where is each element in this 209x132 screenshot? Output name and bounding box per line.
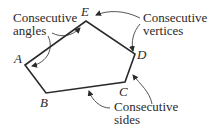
angles-arrow-to-a xyxy=(32,36,50,66)
consecutive-angles-label: Consecutive angles xyxy=(13,11,77,37)
sides-label-line2: sides xyxy=(114,113,178,126)
vertex-label-c: C xyxy=(119,85,128,98)
vertices-arrow-to-e xyxy=(96,12,140,18)
consecutive-vertices-label: Consecutive vertices xyxy=(143,11,207,37)
consecutive-parts-diagram: A B C D E Consecutive angles Consecutive… xyxy=(0,0,209,132)
angles-label-line2: angles xyxy=(13,24,77,37)
vertices-label-line2: vertices xyxy=(143,24,207,37)
vertex-label-d: D xyxy=(137,48,146,61)
vertex-label-b: B xyxy=(40,96,48,109)
vertex-label-e: E xyxy=(81,5,89,18)
consecutive-sides-label: Consecutive sides xyxy=(114,100,178,126)
vertex-label-a: A xyxy=(14,52,22,65)
sides-arrow-to-bc xyxy=(89,91,110,108)
